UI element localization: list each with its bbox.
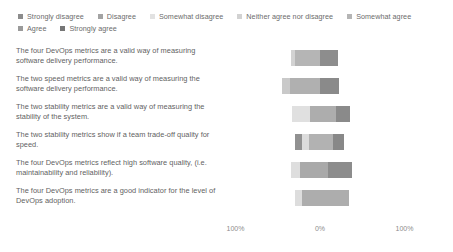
chart-bar-segment[interactable] <box>295 190 303 206</box>
legend-swatch-icon <box>347 14 352 19</box>
chart-row-label: The two speed metrics are a valid way of… <box>16 74 221 94</box>
chart-bar[interactable] <box>291 50 337 66</box>
chart-bar[interactable] <box>295 134 343 150</box>
chart-row-label: The two stability metrics show if a team… <box>16 130 221 150</box>
chart-legend: Strongly disagreeDisagreeSomewhat disagr… <box>18 12 443 36</box>
legend-item[interactable]: Somewhat disagree <box>150 12 223 21</box>
chart-plot-area: The four DevOps metrics are a valid way … <box>0 46 453 222</box>
legend-swatch-icon <box>60 26 65 31</box>
chart-bar-segment[interactable] <box>300 162 328 178</box>
chart-bar-segment[interactable] <box>336 106 350 122</box>
likert-chart: Strongly disagreeDisagreeSomewhat disagr… <box>0 0 453 252</box>
legend-item-label: Disagree <box>107 12 136 21</box>
legend-item[interactable]: Strongly disagree <box>18 12 84 21</box>
chart-bar-segment[interactable] <box>320 78 339 94</box>
legend-item-label: Strongly agree <box>69 24 116 33</box>
legend-item-label: Neither agree nor disagree <box>246 12 333 21</box>
chart-bar[interactable] <box>291 162 352 178</box>
chart-bar-segment[interactable] <box>290 78 320 94</box>
chart-row: The two speed metrics are a valid way of… <box>0 74 453 102</box>
legend-item[interactable]: Strongly agree <box>60 24 116 33</box>
chart-row-label: The four DevOps metrics are a good indic… <box>16 186 221 206</box>
legend-item[interactable]: Somewhat agree <box>347 12 411 21</box>
chart-bar-segment[interactable] <box>328 162 353 178</box>
chart-bar-segment[interactable] <box>302 134 309 150</box>
chart-bar-segment[interactable] <box>292 106 310 122</box>
legend-item[interactable]: Neither agree nor disagree <box>237 12 333 21</box>
legend-item-label: Strongly disagree <box>27 12 84 21</box>
axis-tick-label: 0% <box>315 224 325 234</box>
legend-item-label: Somewhat disagree <box>159 12 223 21</box>
chart-row: The two stability metrics show if a team… <box>0 130 453 158</box>
chart-bar-segment[interactable] <box>295 50 320 66</box>
chart-bar-segment[interactable] <box>291 162 299 178</box>
legend-item[interactable]: Disagree <box>98 12 136 21</box>
chart-row: The four DevOps metrics reflect high sof… <box>0 158 453 186</box>
chart-row: The four DevOps metrics are a valid way … <box>0 46 453 74</box>
chart-row-label: The four DevOps metrics are a valid way … <box>16 46 221 66</box>
chart-row: The two stability metrics are a valid wa… <box>0 102 453 130</box>
legend-swatch-icon <box>237 14 242 19</box>
legend-swatch-icon <box>18 26 23 31</box>
chart-row-label: The two stability metrics are a valid wa… <box>16 102 221 122</box>
chart-bar-segment[interactable] <box>282 78 290 94</box>
chart-bar[interactable] <box>295 190 349 206</box>
chart-row-label: The four DevOps metrics reflect high sof… <box>16 158 221 178</box>
legend-item-label: Somewhat agree <box>356 12 411 21</box>
chart-bar[interactable] <box>292 106 350 122</box>
chart-bar-segment[interactable] <box>302 190 348 206</box>
legend-item[interactable]: Agree <box>18 24 46 33</box>
axis-tick-label: 100% <box>227 224 245 234</box>
legend-swatch-icon <box>98 14 103 19</box>
chart-bar-segment[interactable] <box>295 134 302 150</box>
legend-swatch-icon <box>150 14 155 19</box>
legend-swatch-icon <box>18 14 23 19</box>
chart-x-axis: 100%0%100% <box>0 224 453 240</box>
legend-item-label: Agree <box>27 24 46 33</box>
chart-row: The four DevOps metrics are a good indic… <box>0 186 453 214</box>
chart-bar-segment[interactable] <box>309 134 334 150</box>
chart-bar-segment[interactable] <box>320 50 338 66</box>
chart-bar[interactable] <box>282 78 339 94</box>
axis-tick-label: 100% <box>396 224 414 234</box>
chart-bar-segment[interactable] <box>333 134 343 150</box>
chart-bar-segment[interactable] <box>310 106 336 122</box>
